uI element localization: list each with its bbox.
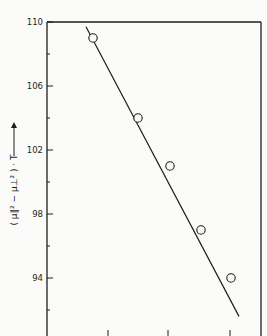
fit-line xyxy=(86,27,239,317)
y-tick-label: 110 xyxy=(27,17,43,27)
data-points xyxy=(89,34,235,282)
y-axis-label: ( μ∥² − μ⊥² ) · T xyxy=(9,122,19,226)
plot-frame xyxy=(47,22,261,336)
y-tick-label: 94 xyxy=(32,273,43,283)
y-axis-ticks: 1101061029894 xyxy=(27,17,53,310)
y-tick-label: 98 xyxy=(32,209,43,219)
data-point-circle-icon xyxy=(227,274,235,282)
arrow-head-icon xyxy=(11,122,17,128)
data-point-circle-icon xyxy=(89,34,97,42)
chart: 1101061029894 ( μ∥² − μ⊥² ) · T xyxy=(0,0,267,336)
y-tick-label: 102 xyxy=(27,145,43,155)
data-point-circle-icon xyxy=(134,114,142,122)
y-tick-label: 106 xyxy=(27,81,43,91)
y-axis-label-text: ( μ∥² − μ⊥² ) · T xyxy=(9,154,19,226)
data-point-circle-icon xyxy=(197,226,205,234)
data-point-circle-icon xyxy=(166,162,174,170)
x-axis-ticks xyxy=(108,330,230,336)
